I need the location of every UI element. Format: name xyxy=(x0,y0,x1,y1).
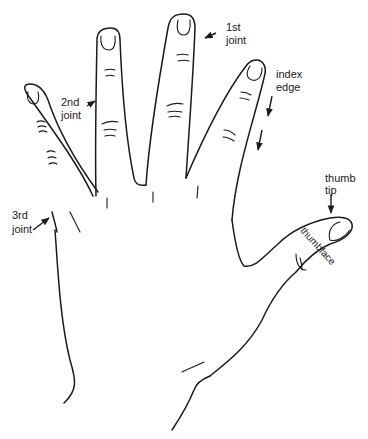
label-1st-joint-line1: 1st xyxy=(226,21,241,33)
arrow-index-edge-2 xyxy=(258,130,262,150)
label-thumb-tip-line1: thumb xyxy=(325,172,356,184)
label-2nd-joint-line1: 2nd xyxy=(61,96,79,108)
label-index-edge-line1: index xyxy=(276,68,303,80)
label-2nd-joint-line2: joint xyxy=(60,109,81,121)
arrow-2nd-joint xyxy=(87,101,95,106)
middle-finger-outline xyxy=(146,14,195,185)
middle-finger-nail xyxy=(177,20,190,35)
web-line-3 xyxy=(197,186,198,198)
palm-left-edge xyxy=(55,230,75,403)
label-3rd-joint-line1: 3rd xyxy=(12,209,28,221)
hand-drawing: 1st joint 2nd joint 3rd joint index edge… xyxy=(0,0,368,439)
label-3rd-joint-line2: joint xyxy=(11,223,32,235)
wrist-right-edge xyxy=(172,376,210,430)
ring-finger-outline xyxy=(96,28,146,196)
hand-outline xyxy=(25,14,353,430)
label-1st-joint-line2: joint xyxy=(225,34,246,46)
annotation-arrows xyxy=(33,33,331,230)
palm-line xyxy=(70,212,80,232)
thumb-nail xyxy=(329,222,350,241)
index-finger-outline xyxy=(186,60,265,220)
little-finger-base xyxy=(52,212,57,232)
wrist-crease xyxy=(182,362,204,372)
label-thumbface: thumbface xyxy=(299,225,339,267)
label-thumb-tip-line2: tip xyxy=(325,184,337,196)
index-finger-nail xyxy=(247,66,262,80)
arrow-index-edge-1 xyxy=(268,96,272,116)
thumb-outline xyxy=(210,217,352,376)
hand-diagram: 1st joint 2nd joint 3rd joint index edge… xyxy=(0,0,368,439)
arrow-3rd-joint xyxy=(33,218,49,230)
ring-finger-nail xyxy=(101,36,115,50)
label-index-edge-line2: edge xyxy=(276,81,300,93)
arrow-1st-joint xyxy=(205,33,216,38)
